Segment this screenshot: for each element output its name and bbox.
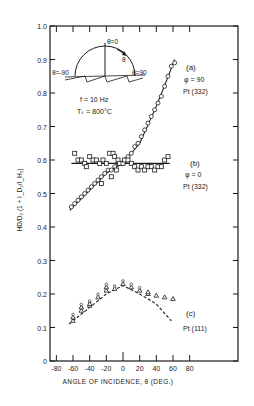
x-axis-label: ANGLE OF INCIDENCE, θ (DEG.) (63, 378, 174, 386)
x-tick-label: -20 (101, 365, 111, 372)
inset-label-top: θ=0 (107, 38, 118, 45)
y-tick-label: 0.5 (37, 191, 47, 198)
annotations: (a) φ = 90 Pt (332) (b) φ = 0 Pt (332) (… (183, 63, 208, 333)
svg-text:HD/D₂ (1 + I_D₂/I_H₂): HD/D₂ (1 + I_D₂/I_H₂) (16, 169, 24, 232)
series-a (69, 60, 176, 211)
y-tick-label: 0.1 (37, 325, 47, 332)
data-point-circle (113, 285, 116, 288)
series-a-surface: Pt (332) (183, 88, 208, 96)
series-c-name: (c) (186, 309, 196, 318)
data-point (173, 61, 177, 65)
data-point-circle (122, 280, 125, 283)
x-tick-label: 20 (136, 365, 144, 372)
series-c-surface: Pt (111) (183, 325, 207, 333)
y-axis-label: HD/D₂ (1 + I_D₂/I_H₂) (16, 169, 24, 232)
data-point (136, 141, 140, 145)
data-point (109, 168, 113, 172)
x-tick-label: 0 (121, 365, 125, 372)
data-point (163, 84, 167, 88)
data-point (171, 297, 175, 301)
data-point (159, 94, 163, 98)
data-point (159, 165, 163, 169)
series-b-surface: Pt (332) (183, 183, 208, 191)
x-tick-label: 80 (186, 365, 194, 372)
data-point (76, 198, 80, 202)
data-point (146, 121, 150, 125)
data-point (109, 175, 113, 179)
x-tick-label: -60 (68, 365, 78, 372)
series-a-param: φ = 90 (184, 76, 204, 84)
data-point (69, 205, 73, 209)
data-point (86, 188, 90, 192)
data-point (143, 128, 147, 132)
data-point (73, 151, 77, 155)
data-point (166, 74, 170, 78)
data-point (79, 195, 83, 199)
series-b-param: φ = 0 (185, 171, 202, 179)
data-point (93, 181, 97, 185)
data-point (129, 151, 133, 155)
x-tick-label: 40 (152, 365, 160, 372)
data-point (133, 145, 137, 149)
data-point (84, 165, 88, 169)
plot-frame (50, 26, 238, 361)
y-tick-label: 0.2 (37, 291, 47, 298)
data-point (154, 293, 158, 297)
y-tick-label: 0.7 (37, 124, 47, 131)
fit-line (69, 286, 171, 325)
data-point (149, 114, 153, 118)
data-point-circle (97, 293, 100, 296)
data-point (114, 168, 118, 172)
y-tick-label: 0.9 (37, 57, 47, 64)
data-point-circle (72, 313, 75, 316)
data-point (89, 185, 93, 189)
data-point (83, 192, 87, 196)
y-tick-label: 0.6 (37, 157, 47, 164)
series-a-name: (a) (186, 63, 196, 72)
data-point (169, 64, 173, 68)
data-point (99, 175, 103, 179)
y-tick-label: 1.0 (37, 23, 47, 30)
series-b (71, 151, 170, 185)
data-point (104, 161, 108, 165)
series-c (69, 280, 175, 324)
data-point (103, 171, 107, 175)
condition-temperature: Tₛ = 800°C (77, 108, 112, 115)
data-point-circle (105, 283, 108, 286)
data-point (139, 135, 143, 139)
data-point-circle (88, 300, 91, 303)
data-point (156, 101, 160, 105)
data-point (73, 202, 77, 206)
inset-label-arc: θ (122, 56, 126, 63)
data-point (99, 181, 103, 185)
x-tick-label: -40 (85, 365, 95, 372)
inset-diagram: θ=0θθ=-90θ=90f = 10 HzTₛ = 800°C (52, 38, 147, 115)
data-point-circle (138, 286, 141, 289)
inset-label-left: θ=-90 (52, 69, 69, 76)
data-point (166, 155, 170, 159)
data-point-circle (130, 283, 133, 286)
data-point (146, 290, 150, 294)
data-point (153, 108, 157, 112)
x-tick-label: 60 (169, 365, 177, 372)
y-tick-label: 0 (43, 358, 47, 365)
series-b-name: (b) (190, 159, 200, 168)
data-point-circle (80, 303, 83, 306)
y-tick-label: 0.3 (37, 258, 47, 265)
condition-frequency: f = 10 Hz (80, 96, 109, 103)
inset-label-right: θ=90 (132, 69, 147, 76)
figure: 00.10.20.30.40.50.60.70.80.91.0-80-60-40… (0, 0, 254, 406)
y-tick-label: 0.4 (37, 224, 47, 231)
y-tick-label: 0.8 (37, 90, 47, 97)
x-tick-label: -80 (51, 365, 61, 372)
data-point (162, 295, 166, 299)
fit-line (70, 60, 175, 211)
